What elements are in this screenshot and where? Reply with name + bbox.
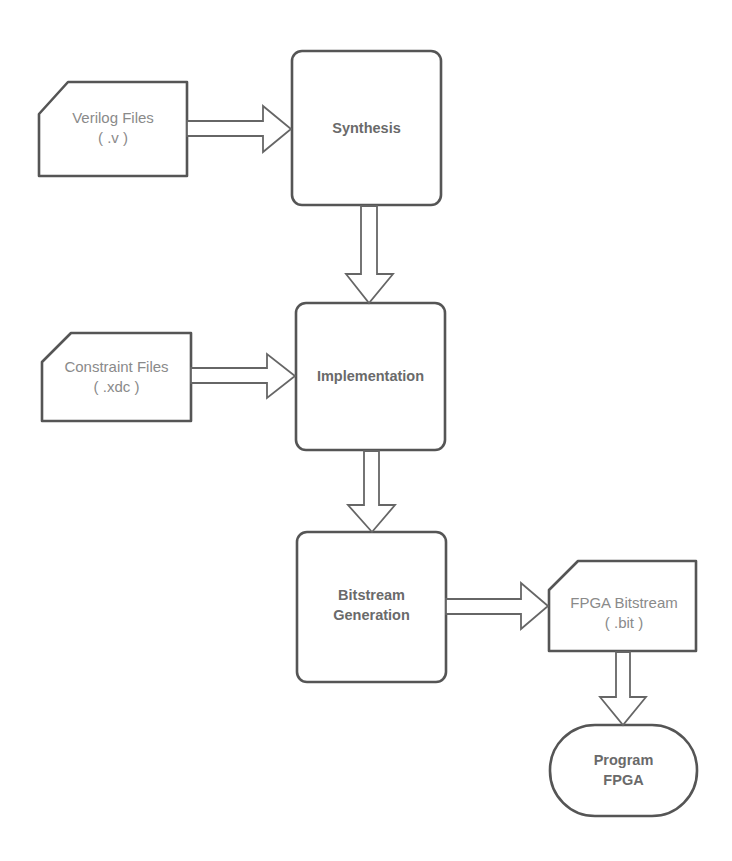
constraint-files-extension: ( .xdc ) bbox=[42, 377, 191, 397]
arrow-down-icon bbox=[348, 451, 395, 532]
implementation-label: Implementation bbox=[296, 367, 445, 387]
fpga-bitstream-label: FPGA Bitstream ( .bit ) bbox=[551, 593, 697, 634]
fpga-bitstream-extension: ( .bit ) bbox=[551, 613, 697, 633]
implementation-title: Implementation bbox=[296, 367, 445, 387]
verilog-files-label: Verilog Files ( .v ) bbox=[39, 108, 187, 149]
arrow-down-icon bbox=[346, 206, 393, 303]
program-fpga-line1: Program bbox=[550, 751, 697, 771]
arrow-down-icon bbox=[600, 652, 646, 725]
arrow-right-icon bbox=[191, 354, 295, 398]
bitstream-generation-label: Bitstream Generation bbox=[297, 586, 446, 625]
verilog-files-title: Verilog Files bbox=[39, 108, 187, 128]
arrow-right-icon bbox=[446, 583, 548, 629]
program-fpga-line2: FPGA bbox=[550, 771, 697, 791]
constraint-files-title: Constraint Files bbox=[42, 357, 191, 377]
fpga-bitstream-title: FPGA Bitstream bbox=[551, 593, 697, 613]
constraint-files-label: Constraint Files ( .xdc ) bbox=[42, 357, 191, 398]
synthesis-title: Synthesis bbox=[292, 119, 441, 139]
verilog-files-extension: ( .v ) bbox=[39, 128, 187, 148]
synthesis-label: Synthesis bbox=[292, 119, 441, 139]
bitstream-generation-line1: Bitstream bbox=[297, 586, 446, 606]
program-fpga-label: Program FPGA bbox=[550, 751, 697, 790]
arrow-right-icon bbox=[187, 106, 291, 152]
bitstream-generation-line2: Generation bbox=[297, 606, 446, 626]
